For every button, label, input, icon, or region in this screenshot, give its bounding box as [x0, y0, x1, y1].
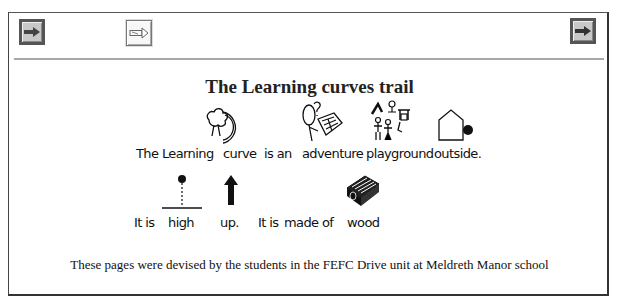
outside-house-symbol — [437, 108, 479, 142]
forward-arrow-button-left[interactable] — [19, 19, 45, 45]
word-high: high — [168, 215, 194, 230]
footer-credit: These pages were devised by the students… — [0, 257, 619, 273]
word-it-is: It is — [134, 215, 154, 230]
word-curve: curve — [223, 146, 256, 161]
forward-arrow-button-right[interactable] — [570, 18, 596, 44]
word-adventure: adventure — [302, 146, 363, 161]
toolbar-separator — [14, 58, 604, 60]
word-it-is-2: It is — [258, 215, 278, 230]
page-title: The Learning curves trail — [0, 76, 619, 98]
word-the-learning: The Learning — [136, 146, 214, 161]
tree-curve-symbol — [203, 106, 243, 146]
text-arrow-button[interactable] — [126, 20, 152, 46]
high-symbol — [160, 174, 202, 210]
word-playground: playground — [366, 146, 434, 161]
word-made-of: made of — [284, 215, 333, 230]
arrow-right-icon — [23, 26, 41, 38]
adventure-symbol — [300, 101, 348, 145]
playground-symbol — [370, 100, 416, 144]
wood-symbol — [345, 174, 381, 208]
word-up: up. — [220, 215, 239, 230]
arrow-right-icon — [574, 25, 592, 37]
word-is-an: is an — [264, 146, 292, 161]
word-wood: wood — [347, 215, 379, 230]
up-arrow-symbol — [223, 174, 239, 206]
word-outside: outside. — [434, 146, 481, 161]
text-arrow-right-icon — [129, 27, 149, 39]
